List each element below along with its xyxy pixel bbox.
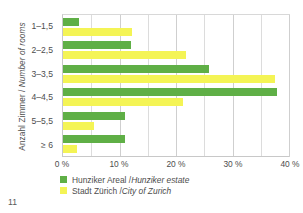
x-tick-label: 40 %	[280, 159, 299, 169]
bar-hunziker-areal	[63, 65, 209, 73]
bar-group	[63, 40, 289, 61]
y-axis-tick-labels: 1–1,5 2–2,5 3–3,5 4–4,5 5–5,5 ≥ 6	[0, 14, 58, 157]
x-tick-label: 20 %	[166, 159, 185, 169]
bar-groups	[63, 15, 289, 156]
bar-stadt-zurich	[63, 28, 132, 36]
bar-group	[63, 111, 289, 132]
bar-stadt-zurich	[63, 98, 183, 106]
bar-group	[63, 64, 289, 85]
bar-chart-figure: Anzahl Zimmer / Number of rooms 1–1,5 2–…	[0, 0, 303, 213]
page-number: 11	[8, 197, 17, 207]
legend-swatch-green-icon	[60, 176, 67, 183]
bar-hunziker-areal	[63, 41, 131, 49]
legend-label-english: City of Zurich	[122, 186, 171, 196]
legend-swatch-yellow-icon	[60, 187, 67, 194]
bar-group	[63, 134, 289, 155]
legend-label-german: Hunziker Areal /	[72, 175, 131, 185]
bar-group	[63, 87, 289, 108]
chart-legend: Hunziker Areal /Hunziker estate Stadt Zü…	[60, 174, 189, 196]
plot-area	[62, 14, 290, 157]
bar-stadt-zurich	[63, 51, 186, 59]
y-tick-label: ≥ 6	[0, 135, 58, 156]
x-tick-label: 10 %	[109, 159, 128, 169]
bar-hunziker-areal	[63, 18, 79, 26]
bar-hunziker-areal	[63, 88, 277, 96]
bar-stadt-zurich	[63, 75, 275, 83]
y-tick-label: 3–3,5	[0, 64, 58, 85]
bar-hunziker-areal	[63, 135, 125, 143]
x-axis-tick-labels: 0 %10 %20 %30 %40 %	[62, 159, 290, 171]
x-tick-label: 30 %	[223, 159, 242, 169]
y-tick-label: 1–1,5	[0, 16, 58, 37]
bar-stadt-zurich	[63, 145, 77, 153]
legend-label-german: Stadt Zürich /	[72, 186, 122, 196]
gridline	[289, 15, 290, 156]
y-tick-label: 2–2,5	[0, 40, 58, 61]
legend-label-hunziker-areal: Hunziker Areal /Hunziker estate	[72, 175, 189, 185]
bar-stadt-zurich	[63, 122, 94, 130]
legend-label-english: Hunziker estate	[131, 175, 189, 185]
legend-label-stadt-zurich: Stadt Zürich /City of Zurich	[72, 186, 171, 196]
y-tick-label: 5–5,5	[0, 111, 58, 132]
bar-group	[63, 17, 289, 38]
legend-item-hunziker-areal: Hunziker Areal /Hunziker estate	[60, 174, 189, 185]
y-tick-label: 4–4,5	[0, 87, 58, 108]
bar-hunziker-areal	[63, 112, 125, 120]
x-tick-label: 0 %	[55, 159, 69, 169]
legend-item-stadt-zurich: Stadt Zürich /City of Zurich	[60, 185, 189, 196]
